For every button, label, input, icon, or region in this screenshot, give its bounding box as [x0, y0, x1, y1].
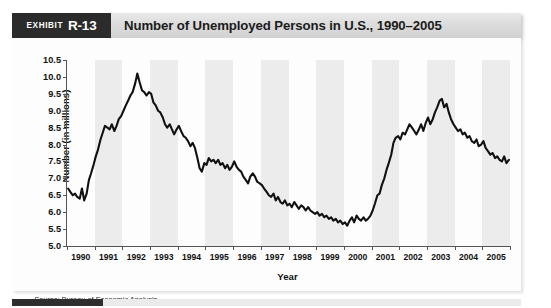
y-tick-label: 8.0 [48, 140, 61, 150]
x-tick-label: 2000 [348, 252, 367, 262]
exhibit-tag: Exhibit R-13 [12, 13, 111, 38]
y-tick [63, 60, 67, 61]
exhibit-title-bar: Exhibit R-13 Number of Unemployed Person… [12, 13, 521, 38]
y-tick-label: 9.0 [48, 106, 61, 116]
y-tick [63, 178, 67, 179]
x-tick-label: 1991 [99, 252, 118, 262]
y-tick-label: 5.5 [48, 224, 61, 234]
y-tick [63, 77, 67, 78]
x-tick-label: 2004 [459, 252, 478, 262]
x-tick [122, 246, 123, 250]
x-tick-label: 2001 [376, 252, 395, 262]
y-tick-label: 6.0 [48, 207, 61, 217]
y-tick [63, 94, 67, 95]
x-tick-label: 1997 [265, 252, 284, 262]
x-tick [427, 246, 428, 250]
y-tick-label: 6.5 [48, 190, 61, 200]
figure-panel: Number (in millions) 5.05.56.06.57.07.58… [12, 38, 521, 291]
y-tick [63, 195, 67, 196]
exhibit-number: R-13 [68, 18, 96, 33]
x-tick-label: 1998 [293, 252, 312, 262]
y-tick-label: 10.0 [43, 72, 61, 82]
bottom-progress-fill [12, 299, 103, 306]
x-tick [205, 246, 206, 250]
x-tick-label: 1993 [154, 252, 173, 262]
x-axis-title: Year [66, 271, 509, 282]
exhibit-label: Exhibit [27, 21, 64, 30]
y-tick-label: 9.5 [48, 89, 61, 99]
x-tick [150, 246, 151, 250]
x-tick [178, 246, 179, 250]
x-tick [95, 246, 96, 250]
x-tick [67, 246, 68, 250]
y-tick [63, 229, 67, 230]
x-tick-label: 1994 [182, 252, 201, 262]
y-tick [63, 145, 67, 146]
line-series-canvas [67, 60, 510, 246]
y-tick [63, 128, 67, 129]
unemployment-line [68, 74, 509, 226]
x-tick-label: 1996 [237, 252, 256, 262]
y-tick [63, 212, 67, 213]
y-tick-label: 7.5 [48, 156, 61, 166]
plot-area [67, 60, 510, 246]
plot-frame: 5.05.56.06.57.07.58.08.59.09.510.010.5 1… [66, 60, 510, 247]
x-tick-label: 1999 [320, 252, 339, 262]
x-tick-label: 2002 [404, 252, 423, 262]
x-tick-label: 2005 [487, 252, 506, 262]
bottom-progress-track [12, 299, 521, 306]
x-tick-label: 1990 [71, 252, 90, 262]
y-tick [63, 111, 67, 112]
page-title: Number of Unemployed Persons in U.S., 19… [124, 13, 442, 38]
x-tick [482, 246, 483, 250]
x-tick-label: 2003 [431, 252, 450, 262]
x-tick [510, 246, 511, 250]
x-tick-label: 1992 [127, 252, 146, 262]
y-tick [63, 161, 67, 162]
y-tick-label: 7.0 [48, 173, 61, 183]
x-tick [289, 246, 290, 250]
x-tick [316, 246, 317, 250]
x-tick [261, 246, 262, 250]
x-tick [233, 246, 234, 250]
y-tick-label: 5.0 [48, 241, 61, 251]
y-tick-label: 10.5 [43, 55, 61, 65]
x-tick [344, 246, 345, 250]
y-tick-label: 8.5 [48, 123, 61, 133]
x-tick-label: 1995 [210, 252, 229, 262]
x-tick [372, 246, 373, 250]
x-tick [455, 246, 456, 250]
x-tick [399, 246, 400, 250]
